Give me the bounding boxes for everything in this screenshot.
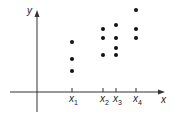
data-point bbox=[101, 36, 105, 40]
scatter-chart: x1x2x3x4 y x bbox=[0, 0, 177, 116]
data-point bbox=[114, 46, 118, 50]
data-point bbox=[134, 36, 138, 40]
data-point bbox=[134, 8, 138, 12]
x-axis-label: x bbox=[160, 94, 167, 105]
x-tick-label: x2 bbox=[99, 93, 109, 106]
data-point bbox=[134, 27, 138, 31]
data-point bbox=[101, 53, 105, 57]
x-tick-label: x1 bbox=[68, 93, 78, 106]
data-point bbox=[70, 57, 74, 61]
data-point bbox=[114, 53, 118, 57]
data-point bbox=[70, 40, 74, 44]
data-point bbox=[114, 36, 118, 40]
axes bbox=[10, 10, 165, 112]
data-point bbox=[70, 69, 74, 73]
y-axis-arrow-icon bbox=[35, 10, 40, 17]
data-point bbox=[114, 23, 118, 27]
x-tick-label: x4 bbox=[132, 93, 142, 106]
data-point bbox=[101, 27, 105, 31]
x-ticks: x1x2x3x4 bbox=[68, 88, 142, 106]
x-tick-label: x3 bbox=[112, 93, 122, 106]
data-points bbox=[70, 8, 138, 73]
y-axis-label: y bbox=[26, 5, 33, 16]
